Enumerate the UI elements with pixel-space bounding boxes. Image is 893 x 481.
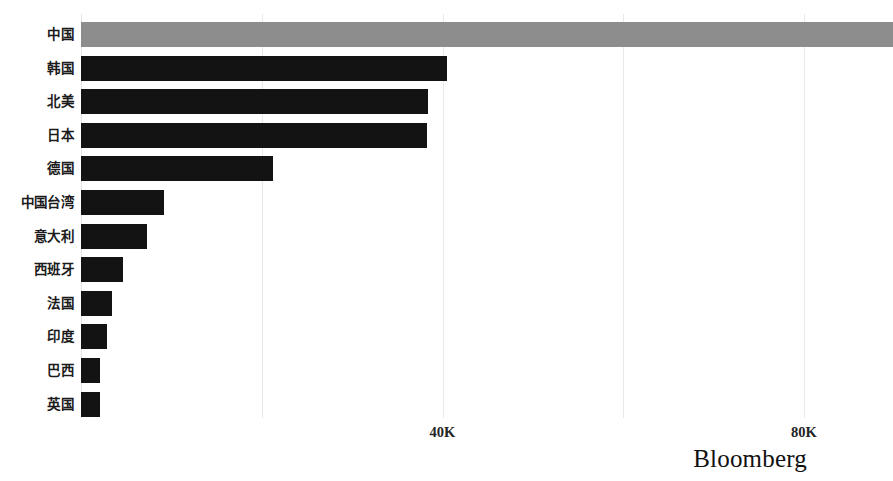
category-label-英国: 英国 — [0, 392, 74, 417]
category-label-印度: 印度 — [0, 324, 74, 349]
bars-layer — [81, 14, 821, 418]
bar-中国台湾[interactable] — [81, 190, 164, 215]
category-label-西班牙: 西班牙 — [0, 257, 74, 282]
bar-北美[interactable] — [81, 89, 428, 114]
category-label-巴西: 巴西 — [0, 358, 74, 383]
bar-西班牙[interactable] — [81, 257, 123, 282]
category-label-韩国: 韩国 — [0, 56, 74, 81]
category-label-意大利: 意大利 — [0, 224, 74, 249]
category-label-日本: 日本 — [0, 123, 74, 148]
bar-英国[interactable] — [81, 392, 100, 417]
bar-中国[interactable] — [81, 22, 893, 47]
bar-日本[interactable] — [81, 123, 427, 148]
bar-法国[interactable] — [81, 291, 112, 316]
bar-德国[interactable] — [81, 156, 273, 181]
category-label-中国台湾: 中国台湾 — [0, 190, 74, 215]
bar-意大利[interactable] — [81, 224, 147, 249]
x-tick-label-80K: 80K — [791, 424, 817, 441]
bar-巴西[interactable] — [81, 358, 100, 383]
category-label-中国: 中国 — [0, 22, 74, 47]
bar-印度[interactable] — [81, 324, 107, 349]
category-label-北美: 北美 — [0, 89, 74, 114]
category-label-德国: 德国 — [0, 156, 74, 181]
x-tick-label-40K: 40K — [430, 424, 456, 441]
category-labels: 中国韩国北美日本德国中国台湾意大利西班牙法国印度巴西英国 — [0, 14, 74, 418]
bloomberg-logo: Bloomberg — [693, 445, 807, 473]
category-label-法国: 法国 — [0, 291, 74, 316]
bar-韩国[interactable] — [81, 56, 447, 81]
